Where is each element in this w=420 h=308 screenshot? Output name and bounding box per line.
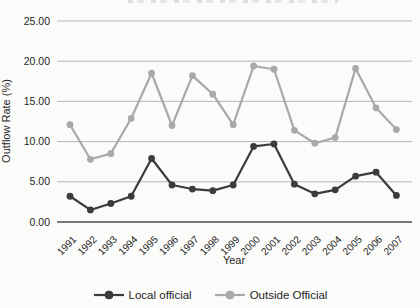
data-point-series-0 [107, 200, 114, 207]
legend-label-local-official: Local official [129, 289, 192, 301]
data-point-series-1 [87, 156, 94, 163]
x-tick-label: 1994 [116, 233, 140, 257]
x-tick-label: 2001 [259, 233, 283, 257]
data-point-series-1 [271, 66, 278, 73]
x-axis-title: Year [223, 254, 246, 266]
data-point-series-1 [148, 70, 155, 77]
cropped-title-remnant [128, 0, 338, 3]
y-tick-label: 25.00 [24, 15, 50, 27]
data-point-series-1 [189, 72, 196, 79]
tick-layer: 0.005.0010.0015.0020.0025.00199119921993… [24, 15, 405, 258]
line-chart-figure: 0.005.0010.0015.0020.0025.00199119921993… [0, 0, 420, 308]
data-point-series-1 [250, 63, 257, 70]
legend-item-local-official: Local official [93, 289, 192, 301]
data-point-series-1 [393, 126, 400, 133]
data-point-series-0 [311, 190, 318, 197]
x-tick-label: 1993 [96, 233, 120, 257]
y-tick-label: 15.00 [24, 95, 50, 107]
data-point-series-1 [373, 104, 380, 111]
data-point-series-1 [67, 121, 74, 128]
data-point-series-0 [291, 181, 298, 188]
data-point-series-0 [230, 182, 237, 189]
y-tick-label: 5.00 [30, 175, 51, 187]
data-point-series-1 [230, 121, 237, 128]
data-point-series-0 [250, 143, 257, 150]
y-tick-label: 20.00 [24, 55, 50, 67]
data-point-series-0 [393, 192, 400, 199]
data-point-series-0 [352, 173, 359, 180]
legend: Local official Outside Official [0, 289, 420, 301]
data-point-series-1 [332, 134, 339, 141]
y-axis-title: Outflow Rate (%) [0, 79, 12, 163]
data-point-series-0 [169, 182, 176, 189]
x-tick-label: 1995 [137, 233, 161, 257]
data-point-series-1 [128, 115, 135, 122]
data-point-series-0 [189, 186, 196, 193]
series-line-1 [70, 66, 396, 159]
plot-area: 0.005.0010.0015.0020.0025.00199119921993… [0, 0, 420, 272]
x-tick-label: 1996 [157, 233, 181, 257]
legend-item-outside-official: Outside Official [214, 289, 328, 301]
data-point-series-0 [148, 155, 155, 162]
data-point-series-0 [373, 169, 380, 176]
data-point-series-0 [209, 187, 216, 194]
x-tick-label: 2007 [381, 233, 405, 257]
x-tick-label: 2003 [300, 233, 324, 257]
data-point-series-0 [87, 207, 94, 214]
x-tick-label: 1998 [198, 233, 222, 257]
x-tick-label: 2002 [279, 233, 303, 257]
data-point-series-0 [67, 193, 74, 200]
data-point-series-0 [128, 193, 135, 200]
x-tick-label: 1991 [55, 233, 79, 257]
data-point-series-0 [332, 186, 339, 193]
outside-official-line-marker-icon [214, 290, 246, 300]
data-point-series-1 [291, 127, 298, 134]
y-tick-label: 10.00 [24, 135, 50, 147]
data-point-series-1 [169, 122, 176, 129]
data-point-series-1 [352, 65, 359, 72]
x-tick-label: 1997 [177, 233, 201, 257]
data-point-series-1 [107, 150, 114, 157]
data-point-series-1 [209, 91, 216, 98]
local-official-line-marker-icon [93, 290, 125, 300]
series-line-0 [70, 144, 396, 210]
series-layer [67, 63, 400, 214]
y-tick-label: 0.00 [30, 216, 51, 228]
x-tick-label: 2006 [361, 233, 385, 257]
data-point-series-1 [311, 140, 318, 147]
x-tick-label: 1992 [75, 233, 99, 257]
data-point-series-0 [271, 141, 278, 148]
x-tick-label: 2005 [341, 233, 365, 257]
legend-label-outside-official: Outside Official [250, 289, 328, 301]
x-tick-label: 2004 [320, 233, 344, 257]
